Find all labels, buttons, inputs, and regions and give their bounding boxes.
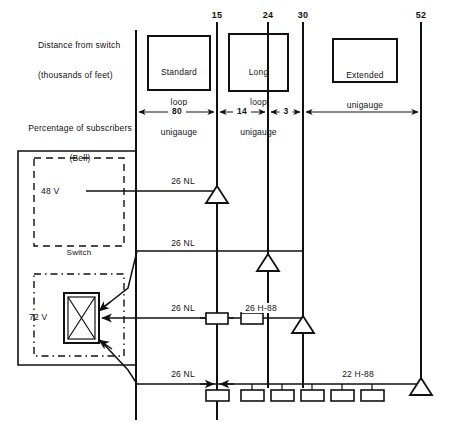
loading-coil (206, 390, 229, 401)
loading-coil (241, 313, 263, 324)
plan-box-long-line3: unigauge (229, 127, 288, 137)
wire-26nl-fourth-arrow (99, 340, 112, 349)
cable-label-26nl-3: 26 NL (168, 303, 198, 313)
axis-tick-52: 52 (416, 10, 426, 21)
wire-26nl-second-arrow (99, 302, 110, 311)
distance-axis-label: Distance from switch (thousands of feet) (38, 20, 120, 100)
percentage-axis-label-line1: Percentage of subscribers (28, 123, 132, 133)
plan-box-extended-line1: Extended (333, 70, 397, 80)
repeater-triangle-15 (206, 186, 228, 203)
repeater-triangle-24 (257, 254, 279, 271)
percentage-value-80: 80 (168, 106, 186, 116)
plan-box-extended-label: Extended unigauge (333, 50, 397, 130)
loading-coil-row-22h88 (206, 384, 384, 401)
plan-box-standard-line3: unigauge (148, 127, 210, 137)
source-72v-bowtie (68, 297, 95, 339)
plan-box-long-line1: Long (229, 67, 288, 77)
cable-label-26nl-1: 26 NL (168, 176, 198, 186)
loading-coil (271, 390, 294, 401)
cable-label-26h88: 26 H-88 (242, 303, 280, 313)
percentage-value-14: 14 (233, 106, 251, 116)
percentage-value-3: 3 (280, 106, 293, 116)
plan-box-long-label: Long loop unigauge (229, 47, 288, 157)
loading-coil (361, 390, 384, 401)
battery-48v-label: 48 V (41, 186, 59, 196)
percentage-axis-label: Percentage of subscribers (Bell) (28, 103, 132, 183)
distance-axis-label-line2: (thousands of feet) (38, 70, 120, 80)
cable-label-26nl-2: 26 NL (168, 238, 198, 248)
switch-label: Switch (67, 248, 92, 257)
loading-coil (206, 313, 228, 324)
plan-box-standard-label: Standard loop unigauge (148, 47, 210, 157)
cable-label-22h88: 22 H-88 (339, 369, 377, 379)
battery-72v-label: 72 V (29, 312, 47, 322)
repeater-triangle-52 (410, 378, 432, 395)
loading-coil (241, 390, 264, 401)
loading-coil (331, 390, 354, 401)
percentage-axis-label-line2: (Bell) (28, 153, 132, 163)
loading-coil (301, 390, 324, 401)
distance-axis-label-line1: Distance from switch (38, 40, 120, 50)
axis-tick-24: 24 (263, 10, 273, 21)
plan-box-standard-line1: Standard (148, 67, 210, 77)
axis-tick-30: 30 (298, 10, 308, 21)
axis-tick-15: 15 (212, 10, 222, 21)
figure-root: Distance from switch (thousands of feet)… (0, 0, 449, 423)
cable-label-26nl-4: 26 NL (168, 369, 198, 379)
plan-box-extended-line2: unigauge (333, 100, 397, 110)
